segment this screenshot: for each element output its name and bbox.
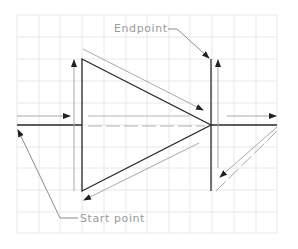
arrow-top-diagonal	[83, 49, 203, 110]
arrow-return-diagonal	[220, 127, 277, 177]
diagram-canvas: Endpoint Start point	[0, 0, 298, 249]
endpoint-label: Endpoint	[114, 22, 168, 35]
return-dashed-diagonal	[216, 131, 277, 191]
arrow-bottom-diagonal	[84, 143, 199, 200]
start-point-label: Start point	[80, 212, 145, 225]
endpoint-leader	[168, 29, 209, 58]
grid	[17, 15, 277, 233]
start-point-leader	[18, 130, 78, 218]
